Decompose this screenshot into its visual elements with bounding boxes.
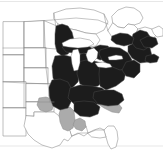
distribution-map-figure: [0, 0, 163, 154]
map-canvas: [0, 0, 163, 154]
region-south-dakota: [24, 48, 46, 68]
region-new-mexico: [3, 108, 26, 136]
region-north-dakota: [24, 21, 44, 48]
region-montana: [3, 22, 24, 55]
region-colorado: [3, 82, 26, 108]
core-carolinas-north-georgia: [93, 90, 124, 106]
region-wyoming: [3, 55, 24, 82]
region-nebraska: [24, 68, 48, 84]
